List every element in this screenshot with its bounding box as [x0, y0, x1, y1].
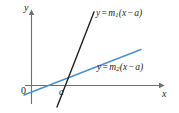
graph-canvas	[0, 0, 179, 113]
eq1-equals: =	[100, 8, 108, 18]
equation-label-m1: y=m1(x−a)	[96, 9, 142, 19]
eq1-close-paren: )	[139, 8, 142, 18]
eq2-equals: =	[101, 62, 109, 72]
origin-label: 0	[21, 86, 26, 96]
eq2-close-paren: )	[140, 62, 143, 72]
x-axis-label: x	[162, 89, 166, 99]
y-axis-label: y	[24, 3, 28, 13]
x-intercept-label-a: a	[59, 88, 64, 98]
eq2-minus: −	[127, 62, 135, 72]
eq1-minus: −	[126, 8, 134, 18]
equation-label-m2: y=m2(x−a)	[97, 63, 143, 73]
figure-container: y x 0 a y=m1(x−a) y=m2(x−a)	[0, 0, 179, 113]
